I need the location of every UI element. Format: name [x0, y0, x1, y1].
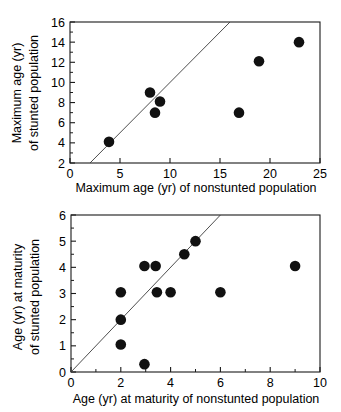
- chart-panel-age-at-maturity: 02468100123456 Age (yr) at maturity of n…: [0, 200, 341, 412]
- maximum-age-yticklabel-14: 14: [51, 36, 65, 50]
- maximum-age-yticklabel-4: 4: [58, 136, 65, 150]
- age-at-maturity-yticklabel-5: 5: [59, 235, 66, 249]
- age-at-maturity-point-10: [215, 287, 226, 298]
- maximum-age-scatter-svg: 0510152025246810121416 Maximum age (yr) …: [0, 0, 341, 206]
- age-at-maturity-x-axis-title: Age (yr) at maturity of nonstunted popul…: [73, 392, 320, 406]
- chart-panel-maximum-age: 0510152025246810121416 Maximum age (yr) …: [0, 0, 341, 206]
- maximum-age-yticklabel-10: 10: [51, 76, 65, 90]
- age-at-maturity-point-8: [179, 249, 190, 260]
- maximum-age-xticklabel-20: 20: [263, 167, 277, 181]
- maximum-age-xticklabel-0: 0: [67, 167, 74, 181]
- age-at-maturity-xticklabel-10: 10: [313, 376, 327, 390]
- maximum-age-xticklabel-25: 25: [313, 167, 327, 181]
- maximum-age-y-axis-title-line1: Maximum age (yr): [10, 43, 24, 144]
- maximum-age-point-1: [145, 87, 156, 98]
- age-at-maturity-yticklabel-3: 3: [59, 287, 66, 301]
- age-at-maturity-point-9: [190, 236, 201, 247]
- age-at-maturity-y-axis-title-line1: Age (yr) at maturity: [11, 243, 25, 350]
- age-at-maturity-yticklabel-0: 0: [59, 366, 66, 380]
- age-at-maturity-scatter-svg: 02468100123456 Age (yr) at maturity of n…: [0, 200, 341, 412]
- maximum-age-point-4: [234, 107, 245, 118]
- age-at-maturity-point-5: [150, 261, 161, 272]
- age-at-maturity-xticklabel-2: 2: [117, 376, 124, 390]
- age-at-maturity-point-1: [116, 314, 127, 325]
- maximum-age-point-0: [104, 137, 115, 148]
- maximum-age-tick-labels: 0510152025246810121416: [51, 16, 327, 182]
- age-at-maturity-tick-labels: 02468100123456: [59, 209, 327, 391]
- age-at-maturity-point-7: [165, 287, 176, 298]
- maximum-age-point-5: [254, 56, 265, 67]
- maximum-age-xticklabel-15: 15: [213, 167, 227, 181]
- maximum-age-yticklabel-8: 8: [58, 96, 65, 110]
- age-at-maturity-yticklabel-4: 4: [59, 261, 66, 275]
- age-at-maturity-yticklabel-6: 6: [59, 209, 66, 223]
- maximum-age-yticklabel-16: 16: [51, 16, 65, 30]
- age-at-maturity-data-points: [116, 236, 301, 370]
- age-at-maturity-xticklabel-8: 8: [267, 376, 274, 390]
- maximum-age-xticklabel-10: 10: [163, 167, 177, 181]
- age-at-maturity-point-11: [290, 261, 301, 272]
- maximum-age-point-6: [294, 37, 305, 48]
- maximum-age-yticklabel-6: 6: [58, 116, 65, 130]
- maximum-age-y-axis-title-line2: of stunted population: [27, 35, 41, 151]
- maximum-age-data-points: [104, 37, 305, 147]
- age-at-maturity-point-0: [116, 287, 127, 298]
- age-at-maturity-yticklabel-2: 2: [59, 313, 66, 327]
- age-at-maturity-xticklabel-0: 0: [68, 376, 75, 390]
- age-at-maturity-xticklabel-4: 4: [167, 376, 174, 390]
- age-at-maturity-point-6: [152, 287, 163, 298]
- maximum-age-xticklabel-5: 5: [117, 167, 124, 181]
- maximum-age-point-2: [155, 96, 166, 107]
- age-at-maturity-y-axis-title-line2: of stunted population: [28, 239, 42, 355]
- age-at-maturity-xticklabel-6: 6: [217, 376, 224, 390]
- maximum-age-point-3: [150, 107, 161, 118]
- age-at-maturity-point-2: [116, 339, 127, 350]
- age-at-maturity-yticklabel-1: 1: [59, 339, 66, 353]
- age-at-maturity-point-4: [139, 261, 150, 272]
- figure-page: 0510152025246810121416 Maximum age (yr) …: [0, 0, 341, 412]
- maximum-age-x-axis-title: Maximum age (yr) of nonstunted populatio…: [75, 181, 316, 195]
- maximum-age-yticklabel-2: 2: [58, 157, 65, 171]
- maximum-age-yticklabel-12: 12: [51, 56, 65, 70]
- age-at-maturity-point-3: [139, 359, 150, 370]
